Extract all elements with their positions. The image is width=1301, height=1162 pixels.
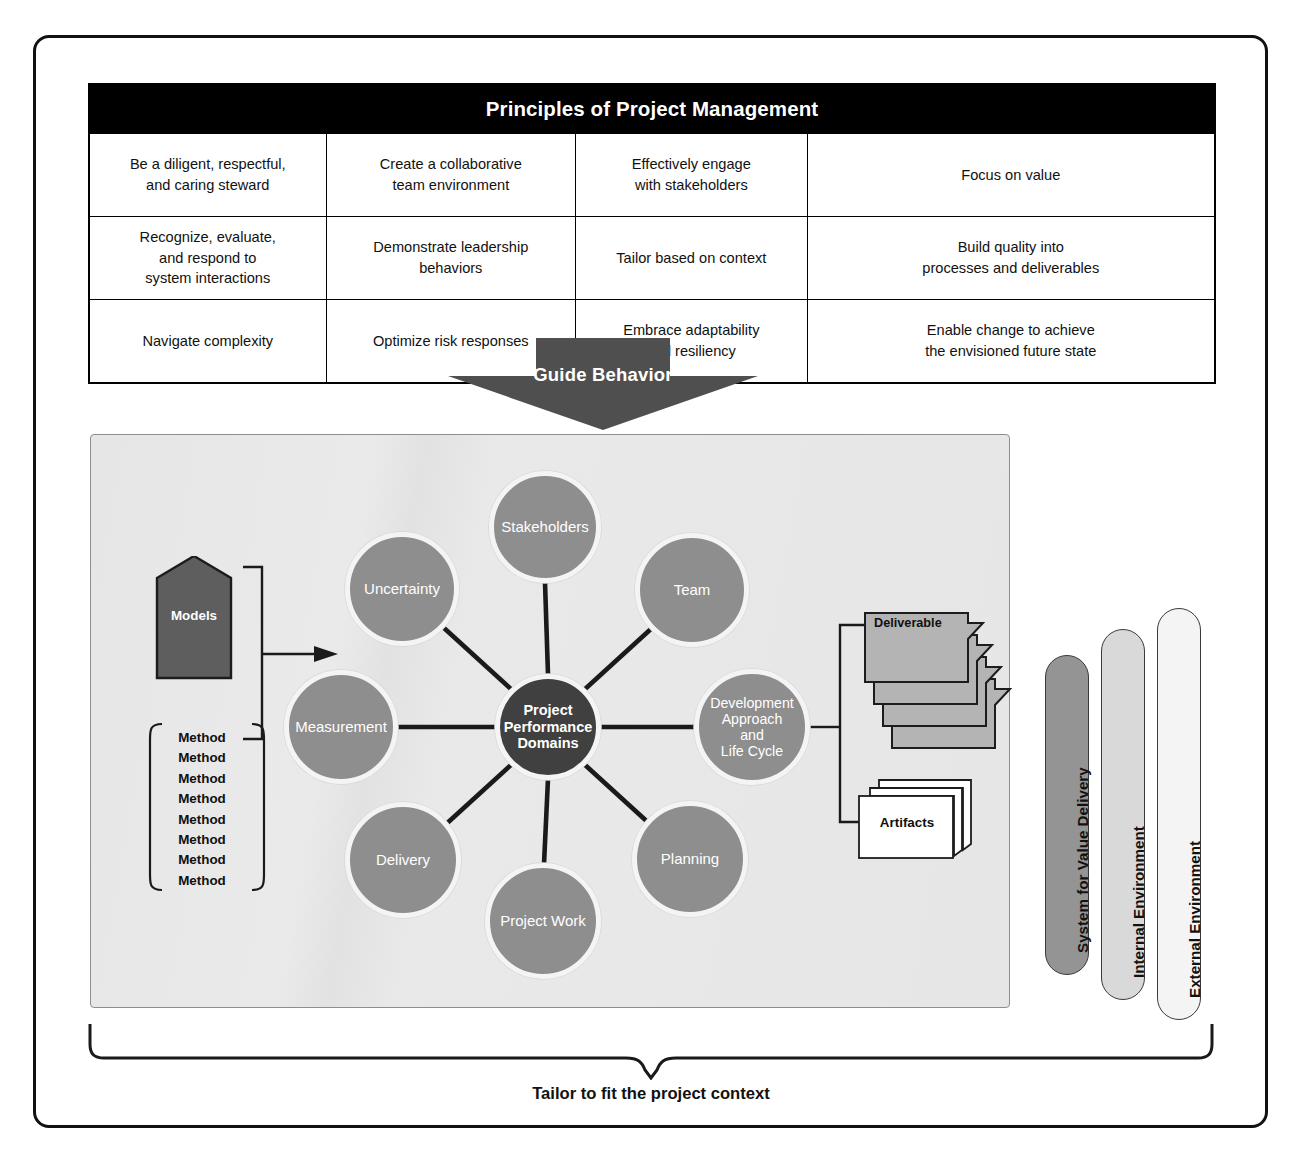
deliverable-item[interactable]: Deliverable [864,612,996,684]
environment-bar-internal-environment[interactable] [1101,629,1145,1000]
center-circle-project-performance-domains[interactable]: ProjectPerformanceDomains [495,674,601,780]
principle-cell: Build quality intoprocesses and delivera… [807,217,1214,300]
domain-label: Team [674,582,711,599]
down-arrow-icon [448,338,758,430]
principle-cell: Be a diligent, respectful,and caring ste… [90,134,326,217]
domain-label: Project Work [500,913,586,930]
domain-label: Planning [661,851,719,868]
domain-circle-development[interactable]: DevelopmentApproachandLife Cycle [694,669,810,785]
models-hexagon-shape [145,556,243,700]
domain-circle-uncertainty[interactable]: Uncertainty [345,532,459,646]
domain-label: DevelopmentApproachandLife Cycle [710,695,794,759]
domain-circle-project-work[interactable]: Project Work [485,863,601,979]
principle-cell: Tailor based on context [576,217,808,300]
principle-cell: Effectively engagewith stakeholders [576,134,808,217]
principle-cell: Recognize, evaluate,and respond tosystem… [90,217,326,300]
domain-circle-team[interactable]: Team [635,533,749,647]
principle-cell: Focus on value [807,134,1214,217]
deliverable-arrow-shape [864,612,996,684]
domain-circle-delivery[interactable]: Delivery [345,802,461,918]
principle-cell: Enable change to achievethe envisioned f… [807,300,1214,383]
diagram-canvas: Principles of Project Management Be a di… [0,0,1301,1162]
tailor-caption: Tailor to fit the project context [86,1084,1216,1104]
principle-cell: Create a collaborativeteam environment [326,134,576,217]
domain-label: Stakeholders [501,519,589,536]
environment-bar-system-for-value-delivery[interactable] [1045,655,1089,975]
principle-cell: Demonstrate leadershipbehaviors [326,217,576,300]
principles-title: Principles of Project Management [90,85,1214,134]
environment-bar-external-environment[interactable] [1157,608,1201,1020]
artifacts-document-stack [855,778,975,860]
domain-circle-stakeholders[interactable]: Stakeholders [489,471,601,583]
tailor-brace [86,1018,1216,1080]
domain-label: Delivery [376,852,430,869]
domain-label: Measurement [295,719,387,736]
principle-cell: Navigate complexity [90,300,326,383]
principles-row: Be a diligent, respectful,and caring ste… [90,134,1214,217]
center-label: ProjectPerformanceDomains [504,702,593,752]
principles-row: Recognize, evaluate,and respond tosystem… [90,217,1214,300]
domain-circle-planning[interactable]: Planning [632,801,748,917]
guide-behavior-arrow: Guide Behavior [448,338,758,430]
domain-label: Uncertainty [364,581,440,598]
domain-circle-measurement[interactable]: Measurement [284,670,398,784]
